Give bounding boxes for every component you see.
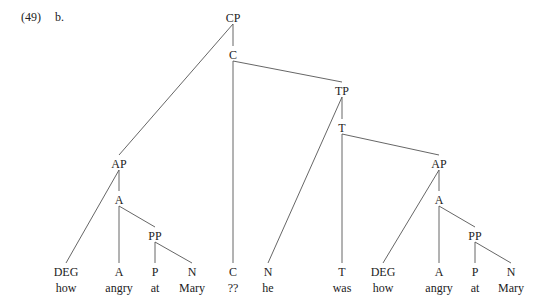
leaf-word: angry [105, 281, 132, 295]
tree-edge [233, 61, 342, 82]
tree-edge [119, 206, 155, 227]
leaf-word: how [56, 281, 77, 295]
syntax-tree: CPCTPTAPAPPAPAPPDEGhowAangryPatNMaryC??N… [0, 0, 545, 308]
leaf-word: at [471, 281, 480, 295]
leaf-word: he [262, 281, 273, 295]
node-label: P [472, 265, 479, 279]
node-label: C [229, 265, 237, 279]
leaf-word: ?? [228, 281, 239, 295]
leaf-word: at [151, 281, 160, 295]
node-label: T [338, 265, 346, 279]
leaf-word: how [373, 281, 394, 295]
node-label: T [338, 121, 346, 135]
node-label: CP [226, 11, 241, 25]
tree-edge [342, 134, 439, 155]
node-label: C [229, 48, 237, 62]
node-label: PP [468, 229, 482, 243]
node-label: AP [111, 157, 127, 171]
tree-edge [475, 242, 511, 263]
tree-edge [119, 24, 233, 155]
node-label: A [435, 265, 444, 279]
node-label: N [507, 265, 516, 279]
leaf-word: was [333, 281, 352, 295]
node-label: PP [148, 229, 162, 243]
tree-edge [439, 206, 475, 227]
leaf-word: Mary [179, 281, 205, 295]
node-label: AP [431, 157, 447, 171]
node-label: P [152, 265, 159, 279]
node-label: N [264, 265, 273, 279]
node-label: DEG [54, 265, 79, 279]
node-label: A [115, 265, 124, 279]
tree-nodes: CPCTPTAPAPPAPAPPDEGhowAangryPatNMaryC??N… [54, 11, 524, 295]
tree-edge [155, 242, 192, 263]
node-label: TP [335, 84, 349, 98]
node-label: DEG [371, 265, 396, 279]
tree-edge [383, 170, 439, 263]
leaf-word: angry [425, 281, 452, 295]
node-label: A [435, 193, 444, 207]
node-label: A [115, 193, 124, 207]
node-label: N [188, 265, 197, 279]
leaf-word: Mary [498, 281, 524, 295]
tree-edge [268, 97, 342, 263]
tree-edge [66, 170, 119, 263]
tree-edges [66, 24, 511, 263]
